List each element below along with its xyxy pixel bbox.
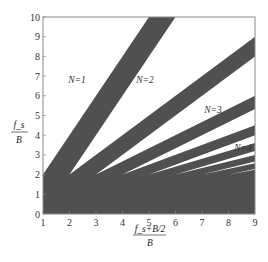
x-tick-label: 9: [253, 217, 258, 228]
zone-label-N4: N=4: [233, 143, 252, 153]
y-tick-label: 7: [35, 71, 40, 82]
y-tick-label: 6: [35, 90, 40, 101]
x-tick-label: 7: [200, 217, 205, 228]
y-tick-label: 9: [35, 31, 40, 42]
bandpass-sampling-chart: 123456789012345678910 f_s B f_s+B/2 B N=…: [0, 0, 268, 262]
zone-label-N2: N=2: [135, 75, 154, 85]
x-tick-label: 6: [173, 217, 178, 228]
y-axis-label-denominator: B: [16, 135, 22, 145]
x-axis-label-denominator: B: [147, 238, 153, 248]
x-tick-label: 4: [120, 217, 125, 228]
x-tick-label: 1: [41, 217, 46, 228]
y-tick-label: 5: [35, 110, 40, 121]
y-tick-label: 8: [35, 51, 40, 62]
x-tick-label: 3: [94, 217, 99, 228]
zone-label-N1: N=1: [67, 75, 86, 85]
y-tick-label: 10: [30, 12, 40, 23]
y-tick-label: 0: [35, 209, 40, 220]
y-axis-label-numerator: f_s: [13, 120, 24, 130]
x-axis-label-numerator: f_s+B/2: [135, 224, 166, 234]
y-tick-label: 1: [35, 189, 40, 200]
x-tick-label: 8: [226, 217, 231, 228]
y-tick-label: 3: [35, 149, 40, 160]
y-tick-label: 2: [35, 169, 40, 180]
x-tick-label: 2: [67, 217, 72, 228]
plot-area: [0, 0, 268, 214]
y-tick-label: 4: [35, 130, 40, 141]
zone-label-N3: N=3: [203, 105, 222, 115]
